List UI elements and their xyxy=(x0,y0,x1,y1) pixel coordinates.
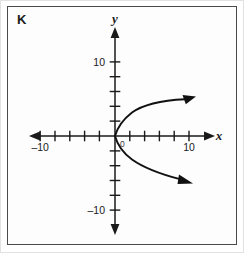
x-tick-label-10: 10 xyxy=(183,141,195,153)
figure-screenshot: K –10 10 x xyxy=(0,0,244,253)
x-axis-right-arrowhead xyxy=(204,132,215,141)
x-axis-left-arrowhead xyxy=(29,132,40,141)
parabola-lower-arrowhead xyxy=(178,175,194,185)
parabola-curve xyxy=(115,95,196,184)
y-tick-label--10: –10 xyxy=(87,204,105,216)
y-axis: 10 –10 y xyxy=(87,11,120,235)
y-tick-label-10: 10 xyxy=(93,56,105,68)
y-axis-label: y xyxy=(110,11,118,26)
y-axis-bottom-arrowhead xyxy=(111,224,120,235)
parabola-lower-branch xyxy=(115,136,180,179)
parabola-upper-branch xyxy=(115,99,185,136)
x-axis-label: x xyxy=(215,128,223,143)
coordinate-plot: –10 10 x 10 xyxy=(7,6,237,245)
parabola-upper-arrowhead xyxy=(183,95,197,104)
x-tick-label--10: –10 xyxy=(31,141,49,153)
y-axis-top-arrowhead xyxy=(111,27,120,38)
x-axis: –10 10 x xyxy=(29,128,223,153)
